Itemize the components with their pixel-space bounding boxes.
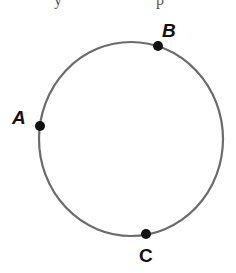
point-a-dot (35, 121, 45, 131)
point-c: C (139, 229, 153, 266)
circle (39, 42, 223, 236)
circle-diagram: A B C (0, 0, 236, 273)
point-b-dot (153, 41, 163, 51)
point-a-label: A (11, 107, 26, 128)
point-c-dot (141, 229, 151, 239)
point-c-label: C (139, 245, 153, 266)
point-b-label: B (162, 20, 176, 41)
point-b: B (153, 20, 176, 51)
